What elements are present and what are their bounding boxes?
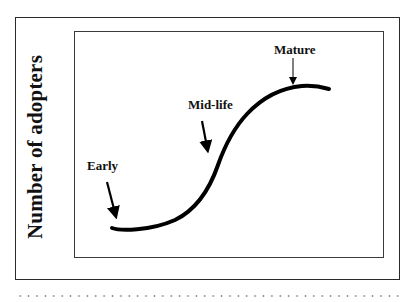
plot-area-frame — [74, 31, 384, 258]
y-axis-label: Number of adopters — [23, 55, 48, 239]
dotted-separator — [16, 295, 401, 297]
annotation-early: Early — [87, 159, 118, 172]
annotation-mid-life: Mid-life — [188, 98, 233, 111]
annotation-mature: Mature — [274, 43, 316, 56]
